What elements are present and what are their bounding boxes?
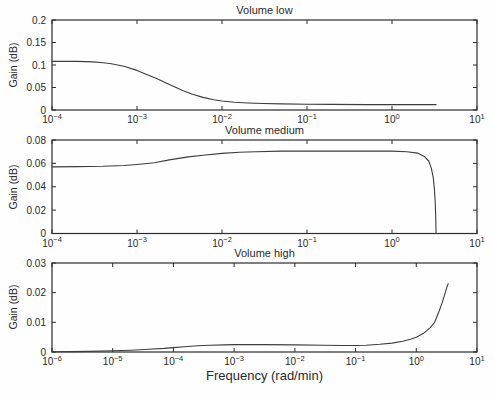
subplot-3-axes: 10−610−510−410−310−210−110010100.010.020… <box>27 258 485 368</box>
y-tick-label: 0.01 <box>27 317 47 328</box>
x-tick-label: 10−2 <box>285 354 305 368</box>
x-tick-label: 101 <box>469 354 484 368</box>
y-tick-label: 0.03 <box>27 258 47 269</box>
x-tick-label: 10−3 <box>224 354 244 368</box>
subplot2-ylabel: Gain (dB) <box>6 127 20 247</box>
gain-curve <box>52 284 448 352</box>
subplot3-title: Volume high <box>52 247 477 259</box>
x-tick-label: 10−2 <box>212 112 232 126</box>
x-tick-label: 100 <box>384 112 399 126</box>
subplot2-title: Volume medium <box>52 124 477 136</box>
y-tick-label: 0 <box>40 228 46 239</box>
x-axis-label: Frequency (rad/min) <box>52 368 477 383</box>
y-tick-label: 0 <box>40 105 46 116</box>
y-tick-label: 0.02 <box>27 205 47 216</box>
subplot3-ylabel: Gain (dB) <box>6 247 20 367</box>
x-tick-label: 10−1 <box>346 354 366 368</box>
gain-curve <box>52 151 436 233</box>
y-tick-label: 0.04 <box>27 181 47 192</box>
axes-box <box>52 140 477 234</box>
y-tick-label: 0.1 <box>32 60 46 71</box>
subplot-2-axes: 10−410−310−210−110010100.020.040.060.08 <box>27 135 485 249</box>
x-tick-label: 100 <box>409 354 424 368</box>
y-tick-label: 0.05 <box>27 82 47 93</box>
subplot-1-axes: 10−410−310−210−110010100.050.10.150.2 <box>27 15 485 126</box>
y-tick-label: 0.15 <box>27 37 47 48</box>
subplot1-ylabel: Gain (dB) <box>6 5 20 125</box>
x-tick-label: 10−5 <box>103 354 123 368</box>
x-tick-label: 101 <box>469 112 484 126</box>
y-tick-label: 0.2 <box>32 15 46 26</box>
x-tick-label: 10−4 <box>164 354 184 368</box>
y-tick-label: 0.02 <box>27 287 47 298</box>
x-tick-label: 10−1 <box>297 112 317 126</box>
gain-curve <box>52 61 436 104</box>
y-tick-label: 0 <box>40 347 46 358</box>
matlab-figure: 10−410−310−210−110010100.050.10.150.210−… <box>0 0 494 395</box>
subplot1-title: Volume low <box>52 4 477 16</box>
plot-canvas: 10−410−310−210−110010100.050.10.150.210−… <box>0 0 494 395</box>
x-tick-label: 10−3 <box>127 112 147 126</box>
y-tick-label: 0.08 <box>27 135 47 146</box>
y-tick-label: 0.06 <box>27 158 47 169</box>
